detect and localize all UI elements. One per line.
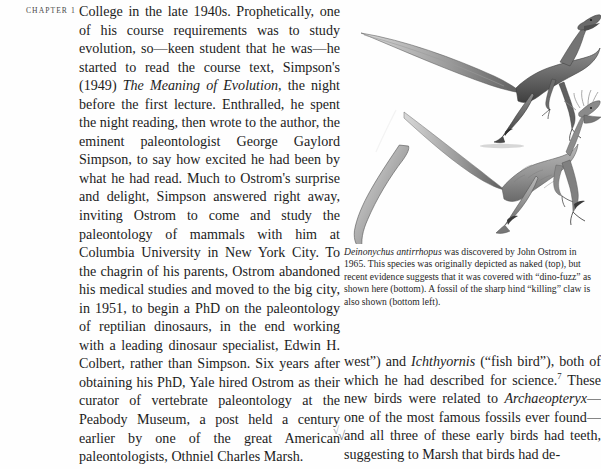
figure-caption-text: Deinonychus antirrhopus was discovered b… xyxy=(344,246,597,308)
chapter-marginal-label: CHAPTER 1 xyxy=(26,6,76,15)
book-page: CHAPTER 1 College in the late 1940s. Pro… xyxy=(0,0,601,469)
figure-caption: Deinonychus antirrhopus was discovered b… xyxy=(344,246,597,308)
naked-deinonychus-top xyxy=(361,15,601,148)
body-paragraph-right: west”) and Ichthyornis (“fish bird”), bo… xyxy=(344,352,601,463)
body-paragraph-left: College in the late 1940s. Prophetically… xyxy=(79,2,340,466)
genus-archaeopteryx-italic: Archaeopteryx xyxy=(504,390,586,406)
body-column-left: College in the late 1940s. Prophetically… xyxy=(79,2,340,466)
deinonychus-figure-svg xyxy=(344,0,601,244)
body-column-right: west”) and Ichthyornis (“fish bird”), bo… xyxy=(344,352,601,463)
body-left-seg-2: , the night before the first lecture. En… xyxy=(79,77,340,464)
genus-ichthyornis-italic: Ichthyornis xyxy=(411,353,475,369)
body-right-lead: west”) and xyxy=(344,353,411,369)
species-name-italic: Deinonychus antirrhopus xyxy=(344,246,442,257)
sickle-claw-fossil xyxy=(351,110,409,244)
book-title-italic: The Meaning of Evolution xyxy=(123,77,278,93)
deinonychus-figure xyxy=(344,0,601,244)
